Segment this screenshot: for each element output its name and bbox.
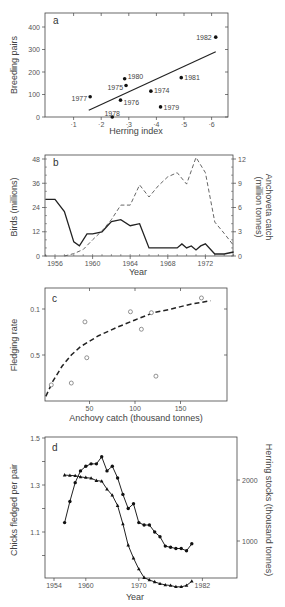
panel-b-ylabel-right-1: Anchoveta catch (264, 174, 274, 241)
panel-b-ylabel-right-2: (million tonnes) (254, 176, 264, 237)
panel-d-letter: d (52, 442, 58, 453)
panel-c-xlabel: Anchovy catch (thousand tonnes) (69, 413, 203, 423)
panel-a-letter: a (53, 15, 59, 26)
panel-c-letter: c (52, 293, 57, 304)
panel-a-ylabel: Breeding pairs (9, 35, 19, 94)
panel-b-letter: b (53, 157, 59, 168)
panel-a-xlabel: Herring index (109, 126, 163, 136)
panel-d-ylabel: Chicks fledged per pair (9, 464, 19, 556)
panel-c-ylabel: Fledging rate (9, 319, 19, 372)
panel-d-xlabel: Year (126, 592, 144, 602)
figure-labels: a Herring index Breeding pairs b Year Bi… (0, 0, 285, 607)
panel-d-ylabel-right: Herring stocks (thousand tonnes) (264, 444, 274, 577)
panel-b-ylabel: Birds (millions) (9, 177, 19, 236)
panel-b-xlabel: Year (129, 267, 147, 277)
